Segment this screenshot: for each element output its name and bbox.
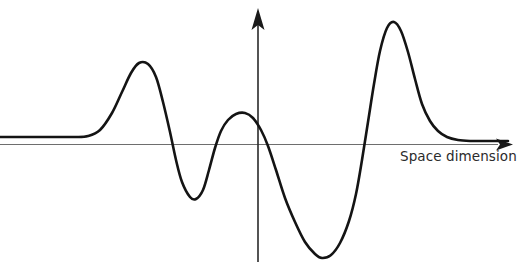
x-axis-label: Space dimension xyxy=(400,148,517,164)
wave-curve xyxy=(0,22,508,258)
wave-figure: Space dimension xyxy=(0,0,518,262)
wave-plot-svg xyxy=(0,0,518,262)
